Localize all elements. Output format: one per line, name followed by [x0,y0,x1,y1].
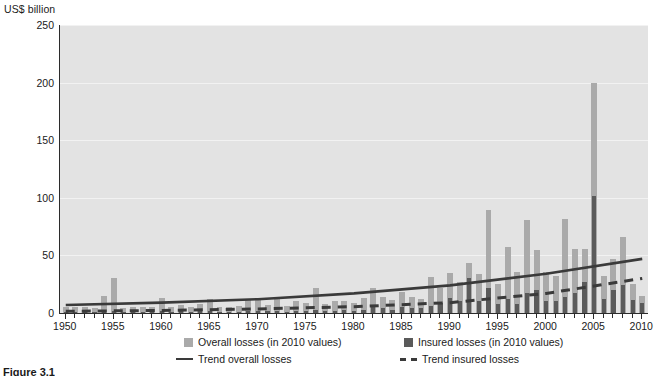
x-axis-tick [488,313,489,318]
x-axis-tick [526,313,527,318]
x-axis-tick [228,313,229,318]
x-axis-tick [276,313,277,318]
legend-item-trend-overall: Trend overall losses [176,353,292,365]
x-axis-tick [209,313,210,319]
x-axis-tick-label: 1995 [485,320,508,332]
x-axis-tick [401,313,402,319]
x-axis-tick [286,313,287,318]
x-axis-tick [420,313,421,318]
x-axis-tick [238,313,239,318]
gridline [60,255,648,256]
y-axis: 050100150200250 [0,25,54,313]
bar-insured-losses [544,301,548,313]
gridline [60,140,648,141]
x-axis-tick [199,313,200,318]
x-axis-tick [65,313,66,319]
bar-insured-losses [458,301,462,313]
x-axis-tick [497,313,498,319]
x-axis-tick-label: 2000 [533,320,556,332]
bar-insured-losses [438,303,442,313]
x-axis-tick [632,313,633,318]
x-axis-tick-label: 2010 [630,320,653,332]
y-axis-tick-label: 0 [4,307,54,319]
bar-insured-losses [448,298,452,313]
gridline [60,25,648,26]
x-axis-tick [478,313,479,318]
bar-insured-losses [582,282,586,313]
bar-insured-losses [515,304,519,313]
x-axis-tick [180,313,181,318]
gridline [60,83,648,84]
gridline [60,198,648,199]
x-axis-tick [612,313,613,318]
figure-container: US$ billion 050100150200250 195019551960… [0,0,663,376]
x-axis-tick [603,313,604,318]
x-axis-tick [94,313,95,318]
legend-solid-line-icon [176,358,193,360]
x-axis-tick-label: 2005 [582,320,605,332]
bar-insured-losses [611,290,615,313]
x-axis-tick [411,313,412,318]
bar-insured-losses [534,290,538,313]
x-axis-tick [468,313,469,318]
x-axis-tick [84,313,85,318]
x-axis-tick [564,313,565,318]
legend-swatch-overall-icon [184,338,193,347]
chart-legend: Overall losses (in 2010 values) Insured … [59,336,647,366]
legend-label-trend-insured: Trend insured losses [422,353,519,365]
x-axis-tick [449,313,450,319]
x-axis-tick [574,313,575,318]
x-axis-tick [142,313,143,318]
bar-insured-losses [621,285,625,313]
x-axis-tick [257,313,258,319]
x-axis-tick [103,313,104,318]
x-axis-tick [295,313,296,318]
x-axis-tick [536,313,537,318]
bar-insured-losses [506,299,510,313]
legend-item-trend-insured: Trend insured losses [400,353,519,365]
x-axis-tick [353,313,354,319]
bar-insured-losses [467,278,471,313]
x-axis-tick [74,313,75,318]
y-axis-tick-label: 250 [4,19,54,31]
bar-insured-losses [631,300,635,313]
x-axis-tick [593,313,594,319]
x-axis-tick-label: 1960 [149,320,172,332]
plot-area [59,25,648,314]
trend-lines-overlay [60,25,648,313]
x-axis-tick-label: 1990 [437,320,460,332]
x-axis-tick [132,313,133,318]
x-axis-tick [622,313,623,318]
x-axis-tick-label: 1965 [197,320,220,332]
x-axis-tick-label: 1980 [341,320,364,332]
x-axis-tick [324,313,325,318]
x-axis-tick [267,313,268,318]
y-axis-tick-label: 150 [4,134,54,146]
x-axis-tick-label: 1955 [101,320,124,332]
bar-insured-losses [602,299,606,313]
x-axis-tick [459,313,460,318]
bar-insured-losses [496,304,500,313]
bar-insured-losses [554,301,558,313]
x-axis-tick [334,313,335,318]
x-axis-tick [151,313,152,318]
legend-swatch-insured-icon [404,338,413,347]
legend-label-insured: Insured losses (in 2010 values) [418,336,563,348]
x-axis-tick-label: 1970 [245,320,268,332]
legend-label-trend-overall: Trend overall losses [198,353,292,365]
x-axis-tick [439,313,440,318]
x-axis-tick [555,313,556,318]
x-axis-tick-label: 1950 [53,320,76,332]
x-axis-tick [190,313,191,318]
bar-insured-losses [525,293,529,313]
x-axis-tick [122,313,123,318]
x-axis-tick [545,313,546,319]
legend-dashed-line-icon [400,358,417,361]
legend-item-overall-losses: Overall losses (in 2010 values) [184,336,342,348]
x-axis-tick [516,313,517,318]
y-axis-title: US$ billion [4,3,55,15]
bar-insured-losses [477,301,481,313]
x-axis-tick [363,313,364,318]
x-axis-tick [113,313,114,319]
x-axis-tick [584,313,585,318]
